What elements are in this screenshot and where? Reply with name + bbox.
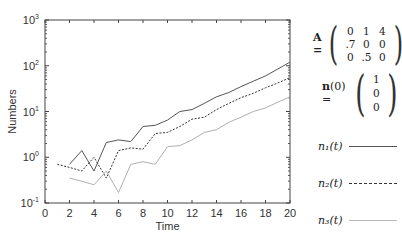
matrix-cell: 4 bbox=[374, 25, 390, 37]
legend-line-dashed bbox=[349, 183, 397, 184]
x-tick-label: 14 bbox=[210, 207, 222, 219]
matrix-cell: 1 bbox=[358, 25, 374, 37]
legend-line-light bbox=[349, 220, 397, 221]
x-tick-label: 18 bbox=[259, 207, 271, 219]
vector-cell: 0 bbox=[369, 87, 383, 99]
y-tick-label: 102 bbox=[23, 59, 39, 72]
matrix-cell: 0 bbox=[342, 51, 358, 63]
legend-item-n2: n₂(t) bbox=[318, 177, 397, 190]
series-line-n2 bbox=[57, 78, 290, 179]
x-tick-label: 6 bbox=[115, 207, 121, 219]
vector-label: n(0) = bbox=[322, 80, 348, 106]
x-tick-label: 12 bbox=[186, 207, 198, 219]
legend-label: n₁(t) bbox=[318, 140, 343, 153]
legend-line-solid bbox=[349, 146, 397, 147]
x-tick-label: 0 bbox=[42, 207, 48, 219]
matrix-a: A = ( 014.7000.50 ) bbox=[313, 22, 402, 66]
legend-label: n₃(t) bbox=[318, 214, 343, 227]
y-tick-label: 100 bbox=[23, 150, 39, 163]
legend-item-n1: n₁(t) bbox=[318, 140, 397, 153]
y-tick-label: 10-1 bbox=[21, 196, 40, 209]
x-axis-label: Time bbox=[155, 220, 179, 232]
line-chart: 0246810121416182010-1100101102103TimeNum… bbox=[0, 0, 300, 235]
series-line-n1 bbox=[70, 62, 291, 171]
matrix-cell: .5 bbox=[358, 51, 374, 63]
chart-axes: 0246810121416182010-1100101102103TimeNum… bbox=[6, 13, 296, 232]
matrix-label: A = bbox=[313, 31, 322, 57]
vector-grid: 100 bbox=[369, 73, 383, 113]
y-tick-label: 101 bbox=[23, 105, 39, 118]
x-tick-label: 16 bbox=[235, 207, 247, 219]
x-tick-label: 2 bbox=[66, 207, 72, 219]
chart-series bbox=[57, 62, 290, 192]
matrix-grid: 014.7000.50 bbox=[342, 25, 390, 63]
right-paren: ) bbox=[387, 71, 397, 115]
vector-cell: 1 bbox=[369, 73, 383, 85]
x-tick-label: 10 bbox=[161, 207, 173, 219]
initial-vector: n(0) = ( 100 ) bbox=[322, 71, 402, 115]
matrix-cell: .7 bbox=[342, 38, 358, 50]
y-tick-label: 103 bbox=[23, 13, 39, 26]
matrix-cell: 0 bbox=[374, 51, 390, 63]
x-tick-label: 8 bbox=[140, 207, 146, 219]
legend-label: n₂(t) bbox=[318, 177, 343, 190]
legend-item-n3: n₃(t) bbox=[318, 214, 397, 227]
left-paren: ( bbox=[329, 22, 338, 66]
matrix-cell: 0 bbox=[374, 38, 390, 50]
left-paren: ( bbox=[355, 71, 365, 115]
y-axis-label: Numbers bbox=[6, 89, 18, 134]
matrix-cell: 0 bbox=[358, 38, 374, 50]
right-paren: ) bbox=[394, 22, 402, 66]
matrix-cell: 0 bbox=[342, 25, 358, 37]
vector-cell: 0 bbox=[369, 101, 383, 113]
x-tick-label: 20 bbox=[284, 207, 296, 219]
x-tick-label: 4 bbox=[91, 207, 97, 219]
